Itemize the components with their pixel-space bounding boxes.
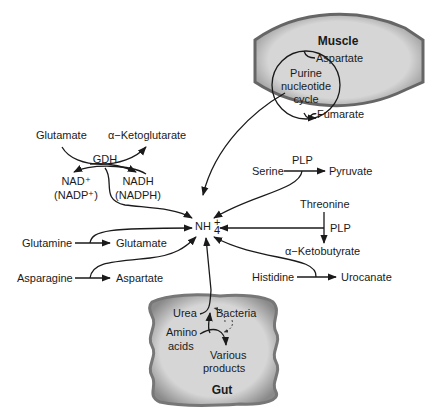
- cycle-line-1: Purine: [290, 67, 322, 79]
- gdh-alpha-ketoglutarate: α−Ketoglutarate: [108, 129, 186, 141]
- gdh-nad: NAD⁺: [61, 175, 90, 187]
- nh4-sub: 4: [214, 224, 220, 236]
- histidine-label: Histidine: [252, 271, 294, 283]
- gut-organ: Urea Bacteria Amino acids Various produc…: [150, 238, 278, 405]
- glutamate-label: Glutamate: [116, 237, 167, 249]
- muscle-fumarate: Fumarate: [317, 108, 364, 120]
- gdh-nadph: (NADPH): [115, 189, 161, 201]
- cycle-line-2: nucleotide: [281, 80, 331, 92]
- urocanate-label: Urocanate: [341, 271, 392, 283]
- ketobutyrate-label: α−Ketobutyrate: [285, 245, 360, 257]
- glutamine-reaction: Glutamine Glutamate: [22, 228, 192, 249]
- gdh-nadh: NADH: [122, 175, 153, 187]
- gut-various: Various: [210, 349, 247, 361]
- cycle-line-3: cycle: [293, 93, 318, 105]
- nh4-label: NH: [195, 220, 211, 232]
- threonine-label: Threonine: [300, 198, 350, 210]
- glutamine-label: Glutamine: [22, 237, 72, 249]
- gut-products: products: [203, 362, 246, 374]
- asparagine-label: Asparagine: [17, 272, 73, 284]
- gdh-glutamate: Glutamate: [36, 129, 87, 141]
- ammonia-sources-diagram: Muscle Purine nucleotide cycle Aspartate…: [0, 0, 444, 415]
- gut-title: Gut: [212, 383, 233, 397]
- gut-acids: acids: [168, 340, 194, 352]
- serine-plp: PLP: [292, 154, 313, 166]
- gut-urea: Urea: [173, 307, 198, 319]
- muscle-organ: Muscle Purine nucleotide cycle Aspartate…: [255, 14, 423, 120]
- serine-label: Serine: [252, 165, 284, 177]
- ammonium-node: NH + 4: [195, 216, 220, 236]
- pyruvate-label: Pyruvate: [329, 165, 372, 177]
- gdh-nadp: (NADP⁺): [54, 189, 98, 201]
- gdh-reaction: Glutamate α−Ketoglutarate GDH NAD⁺ (NADP…: [36, 129, 192, 218]
- muscle-aspartate: Aspartate: [316, 52, 363, 64]
- gut-amino: Amino: [166, 326, 197, 338]
- aspartate-label: Aspartate: [116, 272, 163, 284]
- muscle-title: Muscle: [318, 34, 359, 48]
- histidine-reaction: Histidine Urocanate: [214, 237, 392, 283]
- threonine-plp: PLP: [330, 222, 351, 234]
